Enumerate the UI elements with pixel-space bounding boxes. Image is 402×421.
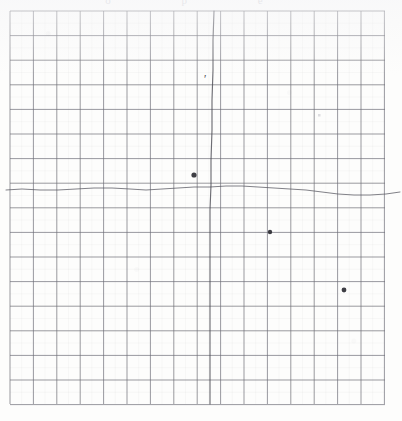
grid-major-lines [10,11,385,405]
svg-text:': ' [203,71,206,86]
graph-plot: ' [0,0,402,421]
scanned-page: o p e ' [0,0,402,421]
